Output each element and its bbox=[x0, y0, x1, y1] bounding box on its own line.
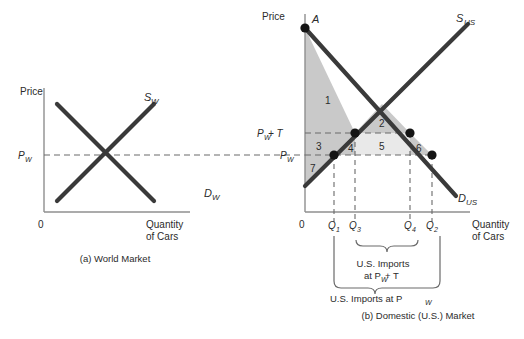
panel-b-demand-label: D US bbox=[458, 192, 478, 207]
svg-text:Q: Q bbox=[426, 220, 434, 231]
svg-text:W: W bbox=[212, 193, 221, 202]
svg-text:W: W bbox=[425, 299, 433, 306]
svg-text:at P: at P bbox=[364, 270, 381, 281]
panel-a-group bbox=[44, 88, 305, 212]
svg-text:2: 2 bbox=[433, 226, 438, 233]
q4-tariff-dot bbox=[405, 128, 414, 137]
panel-b-axis-x-label-2: of Cars bbox=[472, 231, 504, 242]
brace-inner-caption-line1: U.S. Imports bbox=[357, 258, 410, 269]
panel-a-supply-label: S W bbox=[144, 91, 160, 106]
region-4-label: 4 bbox=[348, 143, 354, 154]
q3-tick-label: Q 3 bbox=[349, 220, 361, 233]
region-6-label: 6 bbox=[416, 143, 422, 154]
panel-b-axis-y-label: Price bbox=[262, 11, 285, 22]
region-5-label: 5 bbox=[379, 141, 385, 152]
panel-b-origin-label: 0 bbox=[299, 219, 305, 230]
panel-b-point-a-label: A bbox=[311, 13, 319, 25]
region-1-label: 1 bbox=[325, 95, 331, 106]
brace-inner-imports-tariff bbox=[356, 240, 418, 252]
figure-canvas: Price 0 Quantity of Cars P W S W D W Pri… bbox=[0, 0, 524, 339]
svg-text:S: S bbox=[456, 12, 464, 24]
svg-text:+ T: + T bbox=[385, 270, 399, 281]
svg-text:U.S. Imports at P: U.S. Imports at P bbox=[330, 293, 402, 304]
q3-tariff-dot bbox=[350, 128, 359, 137]
svg-text:P: P bbox=[280, 150, 287, 161]
region-1-shape bbox=[305, 28, 355, 133]
svg-text:1: 1 bbox=[336, 226, 340, 233]
panel-b-group bbox=[300, 14, 470, 294]
svg-text:Q: Q bbox=[328, 220, 336, 231]
region-3-label: 3 bbox=[316, 141, 322, 152]
svg-text:US: US bbox=[466, 198, 478, 207]
panel-b-supply-label: S US bbox=[456, 12, 476, 27]
svg-text:P: P bbox=[257, 128, 264, 139]
panel-a-axis-y-label: Price bbox=[20, 86, 43, 97]
panel-a-demand-label: D W bbox=[204, 187, 221, 202]
svg-text:Q: Q bbox=[404, 220, 412, 231]
svg-text:4: 4 bbox=[412, 226, 416, 233]
svg-text:D: D bbox=[204, 187, 212, 199]
panel-a-axis-x-label-1: Quantity bbox=[146, 219, 183, 230]
svg-text:+ T: + T bbox=[268, 128, 284, 139]
region-2-label: 2 bbox=[379, 118, 385, 129]
panel-b-axis-x-label-1: Quantity bbox=[472, 219, 509, 230]
brace-outer-caption: U.S. Imports at P W bbox=[330, 293, 433, 306]
region-7-label: 7 bbox=[310, 163, 316, 174]
panel-a-price-world-label: P W bbox=[18, 150, 33, 163]
svg-text:P: P bbox=[18, 150, 25, 161]
panel-b-caption: (b) Domestic (U.S.) Market bbox=[362, 310, 475, 321]
svg-text:Q: Q bbox=[349, 220, 357, 231]
svg-text:W: W bbox=[287, 156, 295, 163]
panel-a-origin-label: 0 bbox=[38, 219, 44, 230]
svg-text:W: W bbox=[151, 97, 160, 106]
panel-a-axis-x-label-2: of Cars bbox=[146, 231, 178, 242]
svg-text:D: D bbox=[458, 192, 466, 204]
svg-text:3: 3 bbox=[357, 226, 361, 233]
q1-tick-label: Q 1 bbox=[328, 220, 340, 233]
q2-tick-label: Q 2 bbox=[426, 220, 438, 233]
point-a-dot bbox=[300, 23, 309, 32]
q2-world-dot bbox=[427, 150, 436, 159]
diagram-svg: Price 0 Quantity of Cars P W S W D W Pri… bbox=[0, 0, 524, 339]
svg-text:W: W bbox=[25, 156, 33, 163]
panel-a-caption: (a) World Market bbox=[80, 253, 151, 264]
q4-tick-label: Q 4 bbox=[404, 220, 416, 233]
price-tariff-label: P W + T bbox=[257, 128, 284, 141]
brace-inner-caption-line2: at P W + T bbox=[364, 270, 399, 283]
price-world-label-b: P W bbox=[280, 150, 295, 163]
q1-world-dot bbox=[329, 150, 338, 159]
svg-text:US: US bbox=[464, 18, 476, 27]
